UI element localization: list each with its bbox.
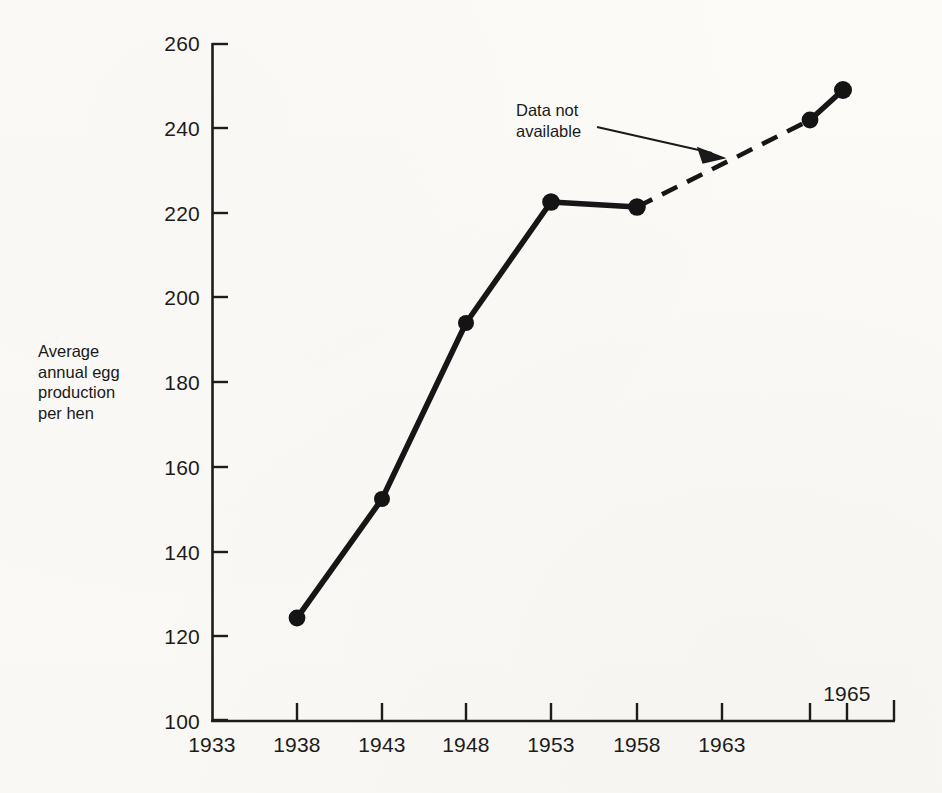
data-point-1958 — [628, 198, 646, 216]
annotation-arrow — [597, 127, 724, 163]
data-point-markers — [289, 81, 852, 626]
x-axis-ticks — [297, 700, 894, 721]
data-line-dashed-gap — [637, 120, 810, 207]
data-point-1964 — [802, 112, 819, 129]
data-point-1938 — [289, 610, 306, 627]
data-point-1965 — [834, 81, 852, 99]
axis-lines — [211, 43, 895, 721]
annotation-arrowhead — [698, 148, 724, 163]
data-point-1943 — [374, 491, 390, 507]
data-point-1953 — [542, 193, 560, 211]
annotation-leader-line — [597, 127, 712, 153]
data-line-solid-main — [297, 202, 637, 618]
y-axis-ticks — [212, 44, 228, 720]
data-point-1948 — [458, 315, 474, 331]
chart-plot-area — [0, 0, 942, 793]
egg-production-chart-figure: Average annual egg production per hen Da… — [0, 0, 942, 793]
